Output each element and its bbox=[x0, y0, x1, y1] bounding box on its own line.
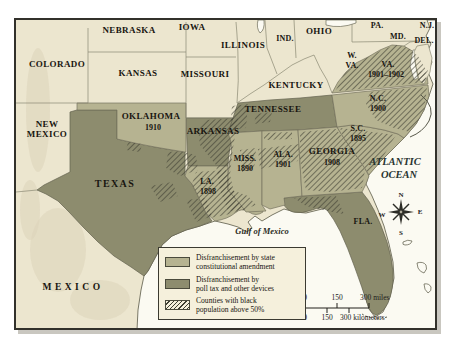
map-label-ohio: OHIO bbox=[306, 26, 332, 36]
compass-letter-w: W bbox=[379, 211, 386, 219]
map-label-new-jersey: N.J. bbox=[420, 21, 435, 30]
map-label-oklahoma-date: 1910 bbox=[145, 123, 161, 132]
legend-poll-tax-line1: Disfranchisement by bbox=[196, 275, 259, 284]
legend-black-counties-line2: population above 50% bbox=[196, 305, 264, 314]
map-label-georgia: GEORGIA bbox=[309, 146, 355, 156]
map-figure: N E W S 0 150 300 miles 0 bbox=[0, 0, 452, 343]
legend-item-poll-tax: Disfranchisement by poll tax and other d… bbox=[165, 275, 300, 294]
map-label-new-mexico-line1: NEW bbox=[36, 119, 59, 129]
scale-miles-150: 150 bbox=[331, 293, 343, 302]
map-label-illinois: ILLINOIS bbox=[221, 40, 265, 50]
map-label-iowa: IOWA bbox=[179, 22, 206, 32]
legend-amendment-line2: constitutional amendment bbox=[196, 262, 275, 271]
map-label-mississippi-date: 1890 bbox=[237, 164, 253, 173]
compass-letter-s: S bbox=[399, 229, 403, 237]
map-label-west-virginia-line1: W. bbox=[347, 51, 357, 60]
compass-letter-n: N bbox=[398, 191, 403, 199]
map-label-delaware: DEL. bbox=[414, 36, 433, 45]
map-label-alabama-date: 1901 bbox=[275, 160, 291, 169]
map-label-kentucky: KENTUCKY bbox=[268, 80, 323, 90]
map-label-south-carolina-date: 1895 bbox=[350, 134, 366, 143]
map-legend: Disfranchisement by state constitutional… bbox=[158, 247, 306, 320]
map-label-arkansas: ARKANSAS bbox=[187, 126, 240, 136]
legend-amendment-line1: Disfranchisement by state bbox=[196, 253, 275, 262]
map-label-georgia-date: 1908 bbox=[324, 158, 340, 167]
map-label-kansas: KANSAS bbox=[119, 68, 158, 78]
map-label-virginia: VA. bbox=[381, 60, 394, 69]
map-label-oklahoma: OKLAHOMA bbox=[122, 111, 181, 121]
map-label-tennessee: TENNESSEE bbox=[245, 104, 302, 114]
map-label-north-carolina: N.C. bbox=[370, 94, 386, 103]
legend-swatch-hatch-icon bbox=[165, 300, 190, 310]
compass-letter-e: E bbox=[418, 208, 423, 216]
map-label-pennsylvania: PA. bbox=[371, 21, 384, 30]
map-label-west-virginia-line2: VA. bbox=[345, 61, 358, 70]
map-label-florida: FLA. bbox=[354, 217, 373, 226]
map-frame: N E W S 0 150 300 miles 0 bbox=[14, 18, 437, 330]
map-label-alabama: ALA. bbox=[273, 150, 293, 159]
legend-item-black-counties: Counties with black population above 50% bbox=[165, 296, 300, 315]
legend-item-state-amendment: Disfranchisement by state constitutional… bbox=[165, 253, 300, 272]
map-label-indiana: IND. bbox=[276, 34, 293, 43]
map-label-texas: TEXAS bbox=[95, 178, 135, 189]
legend-black-counties-line1: Counties with black bbox=[196, 296, 257, 305]
map-label-south-carolina: S.C. bbox=[350, 124, 365, 133]
legend-poll-tax-line2: poll tax and other devices bbox=[196, 284, 274, 293]
map-label-atlantic-line1: ATLANTIC bbox=[368, 156, 421, 167]
map-label-louisiana-date: 1898 bbox=[200, 187, 216, 196]
map-label-missouri: MISSOURI bbox=[181, 69, 230, 79]
map-label-new-mexico-line2: MEXICO bbox=[27, 129, 67, 139]
map-label-nebraska: NEBRASKA bbox=[102, 25, 155, 35]
scale-km-300: 300 kilometers bbox=[340, 313, 385, 322]
map-label-gulf-of-mexico: Gulf of Mexico bbox=[235, 226, 288, 236]
map-label-virginia-date: 1901–1902 bbox=[368, 70, 404, 79]
map-label-atlantic-line2: OCEAN bbox=[381, 169, 418, 180]
legend-swatch-amendment-icon bbox=[165, 257, 190, 267]
map-label-north-carolina-date: 1900 bbox=[370, 104, 386, 113]
map-label-louisiana: LA. bbox=[200, 177, 214, 186]
map-label-mexico: MEXICO bbox=[42, 282, 103, 292]
scale-km-150: 150 bbox=[321, 313, 333, 322]
scale-miles-300: 300 miles bbox=[360, 293, 389, 302]
map-label-mississippi: MISS. bbox=[234, 154, 257, 163]
map-label-maryland: MD. bbox=[390, 32, 406, 41]
map-label-colorado: COLORADO bbox=[29, 59, 85, 69]
legend-swatch-poll-tax-icon bbox=[165, 279, 190, 289]
